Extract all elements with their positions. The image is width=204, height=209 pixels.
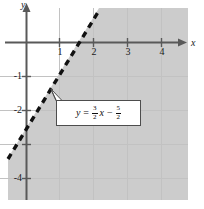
equation-equals: = xyxy=(83,108,89,118)
equation-callout-box: y = 3 2 x − 5 2 xyxy=(56,100,141,126)
fraction-denominator: 2 xyxy=(116,113,122,121)
fraction-denominator: 2 xyxy=(92,113,98,121)
equation-minus: − xyxy=(107,108,113,118)
equation-lhs: y xyxy=(76,108,80,118)
fraction-three-halves: 3 2 xyxy=(92,105,98,121)
fraction-five-halves: 5 2 xyxy=(116,105,122,121)
equation-text: y = 3 2 x − 5 2 xyxy=(76,105,121,121)
fraction-numerator: 5 xyxy=(116,105,122,112)
graph-figure: 1 2 3 4 -1 -2 -4 x y y = 3 2 x − 5 2 xyxy=(0,0,204,209)
callout-pointer xyxy=(51,89,62,101)
fraction-numerator: 3 xyxy=(92,105,98,112)
equation-variable-x: x xyxy=(100,108,104,118)
